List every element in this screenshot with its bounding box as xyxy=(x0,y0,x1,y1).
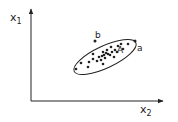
data-point xyxy=(109,54,112,57)
data-point xyxy=(111,51,114,54)
data-point xyxy=(102,51,105,54)
data-point xyxy=(88,61,91,64)
data-point xyxy=(106,49,109,52)
y-axis-label: x1 xyxy=(10,12,22,26)
data-point xyxy=(102,63,105,66)
center-label-A: A xyxy=(117,46,123,55)
data-point xyxy=(92,53,95,56)
outlier-label-b: b xyxy=(95,31,101,40)
data-point xyxy=(127,43,130,46)
data-point xyxy=(98,56,101,59)
y-axis-label-subscript: 1 xyxy=(17,17,22,26)
data-point xyxy=(75,68,78,71)
data-point xyxy=(100,59,103,62)
data-point xyxy=(104,57,107,60)
outlier-label-a: a xyxy=(137,44,143,53)
data-point xyxy=(92,58,95,61)
data-point xyxy=(105,52,108,55)
x-axis-label-subscript: 2 xyxy=(147,109,152,118)
data-point xyxy=(113,56,116,59)
data-point xyxy=(110,46,113,49)
data-point xyxy=(114,49,117,52)
data-point xyxy=(80,62,83,65)
data-point xyxy=(96,60,99,63)
data-point xyxy=(103,54,106,57)
x-axis-label: x2 xyxy=(140,104,152,118)
data-point xyxy=(87,66,90,69)
